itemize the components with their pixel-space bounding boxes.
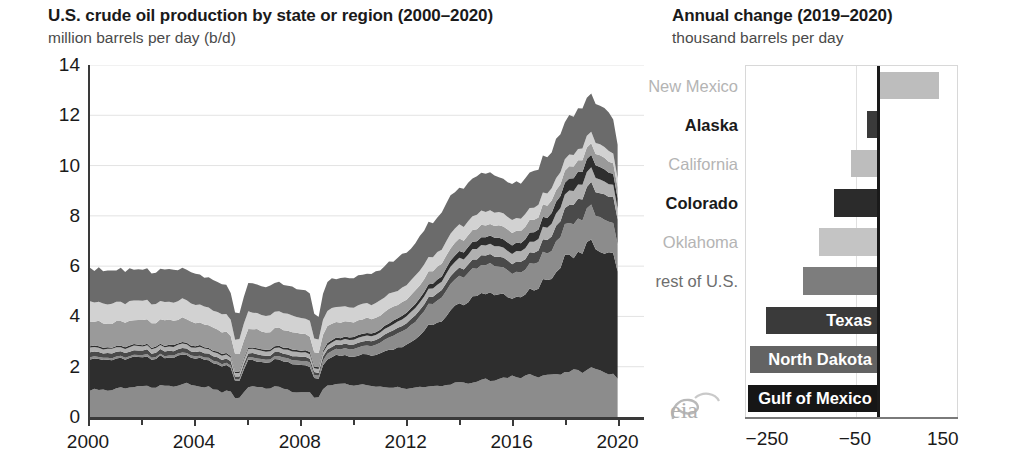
area-y-tick-label: 2 <box>6 356 80 378</box>
bar-new-mexico[interactable] <box>878 72 940 99</box>
bar-row[interactable]: Alaska <box>746 111 957 138</box>
bar-row[interactable]: Gulf of Mexico <box>746 385 957 412</box>
bar-label-gulf-of-mexico: Gulf of Mexico <box>758 390 872 407</box>
area-x-minor-tick <box>459 420 461 425</box>
bar-plot-region: New MexicoAlaskaCaliforniaColoradoOklaho… <box>745 65 958 417</box>
stacked-area-chart: 02468101214 200020042008201220162020 <box>0 55 660 466</box>
bar-label-california: California <box>668 156 738 173</box>
area-x-tick-mark <box>88 420 90 426</box>
right-chart-title: Annual change (2019–2020) <box>672 6 892 26</box>
bar-x-tick-label: −250 <box>746 428 789 450</box>
area-x-tick-label: 2004 <box>173 431 215 453</box>
bar-row[interactable]: Texas <box>746 307 957 334</box>
bar-gulf-of-mexico[interactable]: Gulf of Mexico <box>748 385 878 412</box>
area-x-tick-mark <box>194 420 196 426</box>
bar-x-tick-label: 150 <box>927 428 959 450</box>
area-y-tick-label: 12 <box>6 104 80 126</box>
bar-row[interactable]: Oklahoma <box>746 228 957 255</box>
left-chart-title: U.S. crude oil production by state or re… <box>48 6 493 26</box>
bar-label-oklahoma: Oklahoma <box>663 234 738 251</box>
bar-label-texas: Texas <box>826 312 872 329</box>
area-x-axis: 200020042008201220162020 <box>88 420 644 466</box>
area-x-tick-label: 2000 <box>67 431 109 453</box>
area-x-tick-mark <box>618 420 620 426</box>
bar-row[interactable]: Colorado <box>746 189 957 216</box>
area-y-axis: 02468101214 <box>0 65 80 417</box>
area-y-tick-label: 10 <box>6 155 80 177</box>
area-plot-region <box>88 65 644 417</box>
figure-root: U.S. crude oil production by state or re… <box>0 0 1020 466</box>
area-y-tick-label: 6 <box>6 255 80 277</box>
area-x-tick-label: 2016 <box>490 431 532 453</box>
area-x-minor-tick <box>141 420 143 425</box>
area-x-minor-tick <box>353 420 355 425</box>
bar-oklahoma[interactable] <box>819 228 878 255</box>
area-y-tick-label: 8 <box>6 205 80 227</box>
svg-text:eia: eia <box>670 397 698 423</box>
bar-colorado[interactable] <box>834 189 878 216</box>
bar-texas[interactable]: Texas <box>766 307 878 334</box>
area-x-tick-label: 2020 <box>596 431 638 453</box>
bar-california[interactable] <box>851 150 878 177</box>
bar-row[interactable]: rest of U.S. <box>746 267 957 294</box>
bar-label-new-mexico: New Mexico <box>648 77 738 94</box>
area-x-tick-label: 2008 <box>279 431 321 453</box>
eia-logo: eia <box>669 385 731 425</box>
bar-x-tick-label: −50 <box>839 428 871 450</box>
area-series-layers <box>90 65 644 417</box>
area-x-minor-tick <box>247 420 249 425</box>
bar-row[interactable]: New Mexico <box>746 72 957 99</box>
bar-label-rest-of-u-s-: rest of U.S. <box>655 273 738 290</box>
area-x-tick-label: 2012 <box>385 431 427 453</box>
bar-label-north-dakota: North Dakota <box>768 351 872 368</box>
area-y-tick-label: 14 <box>6 54 80 76</box>
left-chart-subtitle: million barrels per day (b/d) <box>48 29 236 47</box>
bar-rest-of-u-s-[interactable] <box>803 267 878 294</box>
right-chart-subtitle: thousand barrels per day <box>672 29 843 47</box>
bar-label-colorado: Colorado <box>666 195 738 212</box>
bar-zero-axis <box>877 66 880 417</box>
area-x-tick-mark <box>512 420 514 426</box>
bar-row[interactable]: California <box>746 150 957 177</box>
area-x-minor-tick <box>565 420 567 425</box>
bar-x-axis: −250−50150 <box>745 419 958 465</box>
area-y-tick-label: 0 <box>6 406 80 428</box>
bar-north-dakota[interactable]: North Dakota <box>750 346 877 373</box>
area-y-tick-label: 4 <box>6 305 80 327</box>
bar-label-alaska: Alaska <box>685 116 738 133</box>
area-x-tick-mark <box>300 420 302 426</box>
area-x-tick-mark <box>406 420 408 426</box>
bar-row[interactable]: North Dakota <box>746 346 957 373</box>
